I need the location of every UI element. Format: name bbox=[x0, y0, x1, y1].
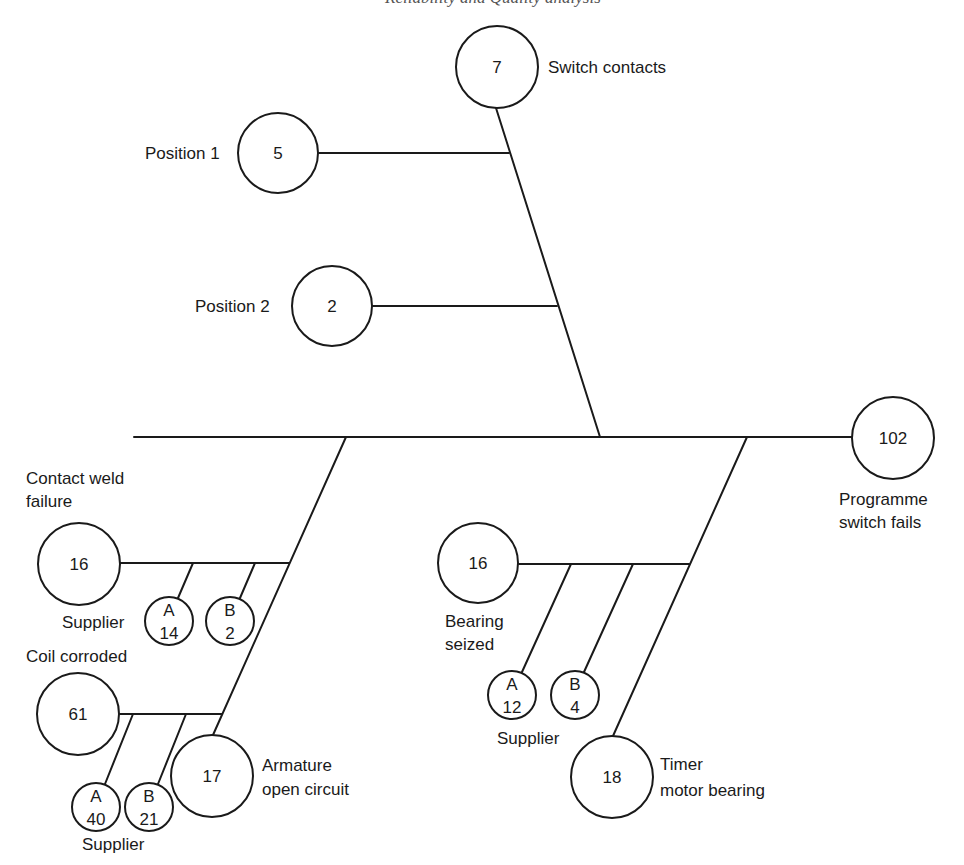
value-bearing-supplier-a: 12 bbox=[503, 698, 522, 717]
label-coil-supplier: Supplier bbox=[82, 833, 144, 856]
id-bearing-supplier-b: B bbox=[569, 675, 580, 694]
id-coil-supplier-a: A bbox=[90, 787, 102, 806]
id-bearing-supplier-a: A bbox=[506, 675, 518, 694]
bearing-supplier-a-tick bbox=[522, 564, 571, 672]
value-switch-contacts: 7 bbox=[492, 58, 501, 77]
label-timer-line2: motor bearing bbox=[660, 779, 765, 802]
value-coil-supplier-a: 40 bbox=[87, 810, 106, 829]
label-bearing-line1: Bearing bbox=[445, 610, 504, 633]
label-bearing-supplier: Supplier bbox=[497, 727, 559, 750]
value-bearing-supplier-b: 4 bbox=[570, 698, 579, 717]
label-root-line1: Programme bbox=[839, 488, 928, 511]
value-coil-corroded: 61 bbox=[69, 705, 88, 724]
label-armature-line1: Armature bbox=[262, 754, 332, 777]
value-bearing-seized: 16 bbox=[469, 554, 488, 573]
label-position-1: Position 1 bbox=[145, 142, 220, 165]
value-root: 102 bbox=[879, 429, 907, 448]
fishbone-diagram: 7 5 2 102 16 61 17 16 18 A 14 B 2 A 40 B… bbox=[0, 0, 964, 865]
label-contact-weld-line1: Contact weld bbox=[26, 467, 124, 490]
value-armature: 17 bbox=[203, 767, 222, 786]
value-contact-weld-supplier-a: 14 bbox=[160, 624, 179, 643]
id-contact-weld-supplier-b: B bbox=[224, 601, 235, 620]
contact-weld-supplier-a-tick bbox=[178, 563, 193, 598]
left-lower-branch bbox=[213, 437, 346, 735]
value-contact-weld-supplier-b: 2 bbox=[225, 624, 234, 643]
value-coil-supplier-b: 21 bbox=[140, 810, 159, 829]
switch-contacts-branch bbox=[496, 108, 600, 437]
id-contact-weld-supplier-a: A bbox=[163, 601, 175, 620]
label-timer-line1: Timer bbox=[660, 753, 703, 776]
label-contact-weld-line2: failure bbox=[26, 490, 72, 513]
label-position-2: Position 2 bbox=[195, 295, 270, 318]
label-bearing-line2: seized bbox=[445, 633, 494, 656]
id-coil-supplier-b: B bbox=[143, 787, 154, 806]
label-root-line2: switch fails bbox=[839, 511, 921, 534]
value-contact-weld: 16 bbox=[70, 555, 89, 574]
label-switch-contacts: Switch contacts bbox=[548, 56, 666, 79]
label-coil-corroded: Coil corroded bbox=[26, 645, 127, 668]
bearing-supplier-b-tick bbox=[584, 564, 633, 672]
value-position-1: 5 bbox=[273, 144, 282, 163]
label-contact-weld-supplier: Supplier bbox=[62, 611, 124, 634]
contact-weld-supplier-b-tick bbox=[240, 563, 255, 598]
value-position-2: 2 bbox=[327, 297, 336, 316]
value-timer-motor: 18 bbox=[603, 768, 622, 787]
label-armature-line2: open circuit bbox=[262, 778, 349, 801]
right-lower-branch bbox=[613, 437, 747, 736]
